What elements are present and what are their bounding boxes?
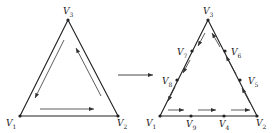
right-vertex-label-v3: V3 [203, 7, 213, 18]
right-vertex-dot-v8 [175, 78, 178, 81]
right-vertex-label-v5: V5 [248, 77, 258, 88]
vertex-label-subscript: 6 [238, 52, 242, 59]
left-vertex-label-v1: V1 [6, 119, 16, 130]
vertex-label-subscript: 2 [263, 123, 267, 130]
right-vertex-label-v9: V9 [186, 120, 196, 131]
right-triangle [158, 18, 258, 117]
right-direction-arrow [168, 87, 175, 101]
left-triangle-edges [20, 20, 118, 116]
vertex-label-subscript: 3 [70, 11, 74, 18]
right-vertex-dot-v1 [158, 114, 161, 117]
vertex-label-subscript: 9 [193, 124, 197, 131]
triangle-subdivision-diagram [0, 0, 277, 133]
left-vertex-label-v3: V3 [63, 7, 73, 18]
right-vertex-label-v2: V2 [256, 119, 266, 130]
vertex-label-subscript: 2 [124, 123, 128, 130]
right-vertex-label-v7: V7 [177, 48, 187, 59]
vertex-label-subscript: 8 [169, 81, 173, 88]
vertex-label-subscript: 7 [184, 52, 188, 59]
vertex-label-subscript: 1 [153, 123, 157, 130]
right-vertex-label-v6: V6 [231, 48, 241, 59]
right-vertex-dot-v4 [222, 114, 225, 117]
vertex-label-subscript: 3 [210, 11, 214, 18]
right-vertex-label-v4: V4 [219, 120, 229, 131]
right-vertex-dot-v7 [190, 49, 193, 52]
vertex-label-subscript: 1 [13, 123, 17, 130]
right-vertex-label-v8: V8 [162, 77, 172, 88]
right-vertex-dot-v3 [206, 18, 209, 21]
left-vertex-label-v2: V2 [117, 119, 127, 130]
left-direction-arrow [35, 40, 64, 98]
right-vertex-dot-v9 [189, 114, 192, 117]
left-vertex-dot-v1 [18, 114, 21, 117]
right-direction-arrow [242, 88, 250, 103]
vertex-label-subscript: 5 [255, 81, 259, 88]
left-triangle [18, 18, 119, 117]
left-direction-arrow [76, 48, 101, 96]
right-vertex-dot-v5 [238, 78, 241, 81]
right-triangle-edges [160, 20, 257, 116]
vertex-label-subscript: 4 [226, 124, 230, 131]
right-direction-arrow [198, 33, 205, 46]
right-vertex-label-v1: V1 [146, 119, 156, 130]
right-vertex-dot-v6 [223, 49, 226, 52]
left-vertex-dot-v3 [66, 18, 69, 21]
